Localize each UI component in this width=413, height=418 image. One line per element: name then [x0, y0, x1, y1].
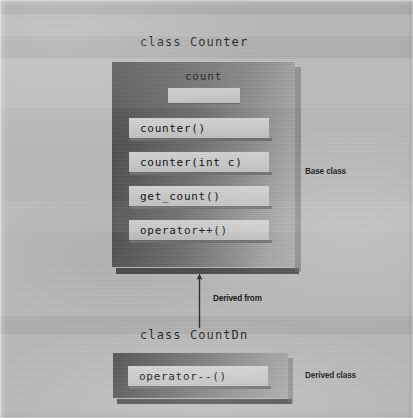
- base-class-title: class Counter: [140, 35, 248, 49]
- base-method-row: operator++(): [129, 220, 269, 240]
- derived-class-box-shadow-right: [288, 358, 293, 403]
- class-inheritance-diagram: class Counter count counter() counter(in…: [0, 0, 413, 418]
- arrow-up-icon: [190, 272, 210, 328]
- base-class-box: count counter() counter(int c) get_count…: [112, 62, 295, 267]
- derived-class-annotation: Derived class: [305, 369, 356, 380]
- derivation-label: Derived from: [213, 292, 262, 303]
- base-method-label: operator++(): [140, 224, 228, 237]
- derived-method-label: operator--(): [139, 370, 227, 383]
- base-method-row: counter(int c): [129, 152, 269, 172]
- derived-class-box-shadow-bottom: [117, 399, 292, 404]
- base-method-label: counter(): [140, 122, 206, 135]
- base-method-row: counter(): [129, 118, 269, 138]
- base-method-label: get_count(): [140, 190, 221, 203]
- member-data-label: count: [112, 70, 295, 83]
- member-data-field: [168, 88, 240, 103]
- base-class-annotation: Base class: [305, 165, 346, 176]
- base-class-box-shadow-right: [295, 67, 301, 272]
- derived-method-row: operator--(): [128, 366, 268, 386]
- base-method-row: get_count(): [129, 186, 269, 206]
- derived-class-box: operator--(): [113, 353, 288, 398]
- base-method-label: counter(int c): [140, 156, 243, 169]
- derived-class-title: class CountDn: [140, 328, 248, 342]
